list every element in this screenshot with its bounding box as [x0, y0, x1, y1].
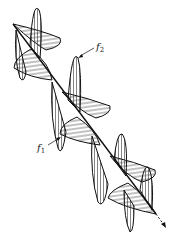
- propagation-axis: [13, 24, 156, 214]
- f2-lobe-3: [68, 56, 81, 112]
- propagation-arrow-icon: [161, 222, 166, 228]
- label-f2-subscript: 2: [100, 46, 104, 54]
- label-f2: f2: [96, 42, 104, 54]
- polarized-wave-diagram: [0, 0, 173, 236]
- label-f1: f1: [37, 143, 45, 155]
- label-f1-subscript: 1: [41, 147, 45, 155]
- f2-lobe-5: [114, 134, 127, 176]
